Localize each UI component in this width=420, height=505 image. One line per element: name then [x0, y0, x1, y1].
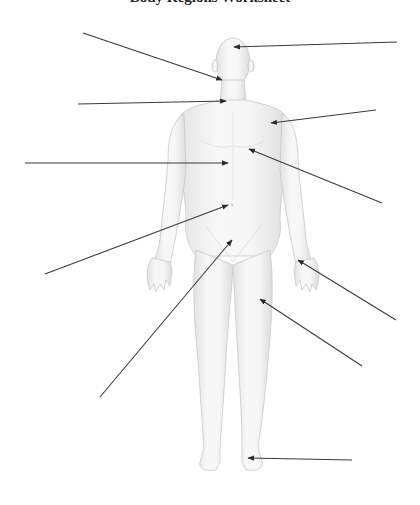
right-arm — [154, 114, 186, 266]
leader-line-palmar — [298, 260, 396, 320]
right-hand — [147, 258, 172, 292]
left-arm — [280, 114, 312, 266]
leader-line-acromial — [271, 110, 376, 123]
left-leg — [233, 250, 272, 471]
leader-line-cephalic — [234, 42, 397, 47]
leader-line-cervical — [78, 101, 226, 104]
anatomy-diagram — [0, 0, 420, 505]
leader-line-oral — [83, 33, 222, 80]
leader-line-femoral — [260, 299, 362, 366]
head — [216, 38, 250, 86]
right-leg — [194, 250, 233, 471]
human-figure — [147, 38, 319, 471]
left-hand — [294, 258, 319, 292]
leader-line-tarsal — [248, 458, 352, 460]
